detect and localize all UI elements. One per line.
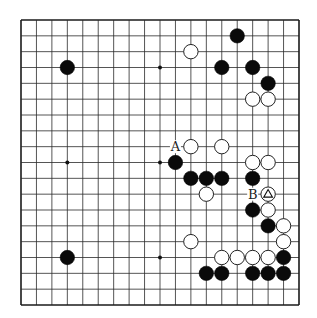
white-stone [184, 234, 198, 248]
black-stone [60, 250, 74, 264]
white-stone [261, 250, 275, 264]
black-stone [168, 155, 182, 169]
white-stone [215, 250, 229, 264]
black-stone [245, 266, 259, 280]
white-stone [261, 203, 275, 217]
white-stone [261, 92, 275, 106]
white-stone [184, 44, 198, 58]
black-stone [215, 171, 229, 185]
star-point [65, 161, 69, 165]
labels-layer: AB [170, 139, 258, 202]
black-stone [276, 250, 290, 264]
white-stone [276, 219, 290, 233]
white-stone [230, 250, 244, 264]
go-board-diagram: AB [0, 0, 317, 318]
white-stone [261, 155, 275, 169]
star-point [158, 66, 162, 70]
white-stone [215, 139, 229, 153]
black-stone [261, 266, 275, 280]
black-stone [245, 171, 259, 185]
black-stone [215, 60, 229, 74]
black-stone [261, 76, 275, 90]
white-stone [199, 187, 213, 201]
black-stone [199, 266, 213, 280]
black-stone [245, 60, 259, 74]
black-stone [60, 60, 74, 74]
star-point [158, 161, 162, 165]
white-stone [245, 155, 259, 169]
white-stone [245, 250, 259, 264]
white-stone [276, 234, 290, 248]
white-stone [245, 92, 259, 106]
white-stone [184, 139, 198, 153]
black-stone [245, 203, 259, 217]
black-stone [261, 219, 275, 233]
star-point [158, 256, 162, 260]
black-stone [230, 29, 244, 43]
black-stone [199, 171, 213, 185]
point-label-a: A [170, 139, 181, 154]
black-stone [215, 266, 229, 280]
black-stone [184, 171, 198, 185]
point-label-b: B [248, 187, 258, 202]
black-stone [276, 266, 290, 280]
